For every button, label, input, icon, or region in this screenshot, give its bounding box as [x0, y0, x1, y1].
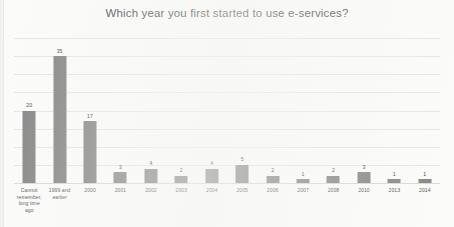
bar[interactable] [357, 172, 370, 183]
bar-value-label: 3 [362, 164, 365, 170]
bar-value-label: 1 [393, 171, 396, 177]
bar-slot: 20 [14, 38, 44, 183]
bar-slot: 5 [227, 38, 257, 183]
bar-value-label: 17 [87, 113, 93, 119]
bar[interactable] [327, 176, 340, 183]
x-axis-label: 2008 [318, 187, 348, 194]
bar[interactable] [84, 121, 97, 183]
left-border-strip [0, 0, 4, 227]
bar-slot: 3 [349, 38, 379, 183]
x-axis-label: 2007 [288, 187, 318, 194]
bar[interactable] [144, 169, 157, 184]
x-axis-label: 2001 [105, 187, 135, 194]
bar[interactable] [205, 169, 218, 184]
bar[interactable] [53, 56, 66, 183]
bar[interactable] [175, 176, 188, 183]
x-axis-label: 2005 [227, 187, 257, 194]
x-axis-label: 2013 [379, 187, 409, 194]
x-axis-label: 2002 [136, 187, 166, 194]
bar-slot: 1 [410, 38, 440, 183]
bar-value-label: 5 [241, 156, 244, 162]
chart-title: Which year you first started to use e-se… [0, 7, 454, 19]
bar-slot: 2 [257, 38, 287, 183]
bar-value-label: 4 [210, 160, 213, 166]
bar-series: 20351734245212311 [14, 38, 440, 183]
chart-screenshot: Which year you first started to use e-se… [0, 0, 454, 227]
bar-slot: 35 [44, 38, 74, 183]
bar[interactable] [266, 176, 279, 183]
bar-slot: 1 [379, 38, 409, 183]
bar-value-label: 2 [271, 167, 274, 173]
bar-value-label: 2 [180, 167, 183, 173]
x-axis-label: 2010 [349, 187, 379, 194]
bar-slot: 3 [105, 38, 135, 183]
bar-value-label: 1 [423, 171, 426, 177]
x-axis-label: 1999 and earlier [44, 187, 74, 200]
bar-value-label: 20 [26, 102, 32, 108]
bar-slot: 2 [318, 38, 348, 183]
bar-value-label: 2 [332, 167, 335, 173]
x-axis-label: 2000 [75, 187, 105, 194]
x-axis-labels: Cannot remember, long time ago1999 and e… [14, 187, 440, 227]
x-axis-label: 2006 [257, 187, 287, 194]
bar-value-label: 3 [119, 164, 122, 170]
bar-slot: 1 [288, 38, 318, 183]
bar-slot: 17 [75, 38, 105, 183]
x-axis-label: 2014 [410, 187, 440, 194]
bar-value-label: 1 [302, 171, 305, 177]
bar[interactable] [23, 111, 36, 184]
x-axis-label: 2003 [166, 187, 196, 194]
bar-slot: 4 [136, 38, 166, 183]
x-axis-label: Cannot remember, long time ago [14, 187, 44, 213]
x-axis-baseline [14, 183, 440, 184]
x-axis-label: 2004 [197, 187, 227, 194]
bar-slot: 4 [197, 38, 227, 183]
bar-value-label: 4 [149, 160, 152, 166]
bar[interactable] [114, 172, 127, 183]
bar-slot: 2 [166, 38, 196, 183]
bar[interactable] [236, 165, 249, 183]
bar-value-label: 35 [57, 48, 63, 54]
